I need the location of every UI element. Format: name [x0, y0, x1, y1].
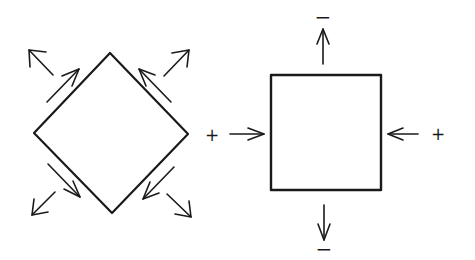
arrow-right-inward-icon — [388, 128, 418, 140]
square-element — [271, 75, 381, 190]
diamond-shape — [34, 53, 188, 213]
label-left-sign: + — [205, 125, 219, 145]
shear-arrow-lower-left-icon — [48, 164, 80, 197]
arrow-top-icon — [317, 29, 329, 64]
stress-diagram: − − + + — [0, 0, 475, 260]
square-shape — [271, 75, 381, 190]
sign-labels: − − + + — [205, 5, 445, 260]
shear-arrow-lower-right-icon — [143, 167, 174, 199]
diagonal-arrows — [29, 50, 191, 217]
arrow-down-right-icon — [167, 194, 191, 217]
arrow-up-left-icon — [29, 50, 53, 75]
diagram-canvas: − − + + — [0, 0, 475, 260]
arrow-left-inward-icon — [230, 128, 264, 140]
label-bottom-sign: − — [316, 237, 333, 260]
shear-arrows — [47, 69, 174, 199]
label-top-sign: − — [315, 5, 332, 29]
arrow-up-right-icon — [164, 50, 189, 76]
arrow-down-left-icon — [32, 192, 55, 215]
label-right-sign: + — [431, 124, 445, 144]
arrow-bottom-icon — [318, 205, 330, 240]
diamond-element — [34, 53, 188, 213]
